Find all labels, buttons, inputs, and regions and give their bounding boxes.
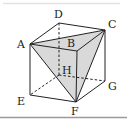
label-f: F (71, 105, 79, 118)
label-c: C (108, 18, 116, 31)
edge-ef (30, 95, 76, 102)
label-a: A (16, 38, 26, 51)
label-d: D (54, 8, 63, 21)
label-b: B (67, 37, 75, 50)
label-e: E (17, 95, 25, 108)
edge-he (30, 75, 59, 95)
label-g: G (108, 80, 117, 93)
cube-diagram: A B C D H G E F (0, 0, 127, 122)
edge-dc (59, 23, 105, 30)
label-h: H (62, 64, 72, 77)
